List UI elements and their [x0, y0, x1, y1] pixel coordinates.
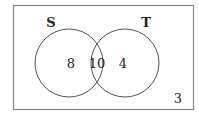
set-s-label: S	[46, 15, 55, 30]
venn-diagram: S T 8 10 4 3	[0, 0, 199, 114]
t-only-count: 4	[119, 56, 127, 71]
intersection-count: 10	[89, 56, 106, 71]
outside-count: 3	[174, 91, 182, 106]
s-only-count: 8	[67, 56, 75, 71]
set-t-label: T	[141, 15, 151, 30]
